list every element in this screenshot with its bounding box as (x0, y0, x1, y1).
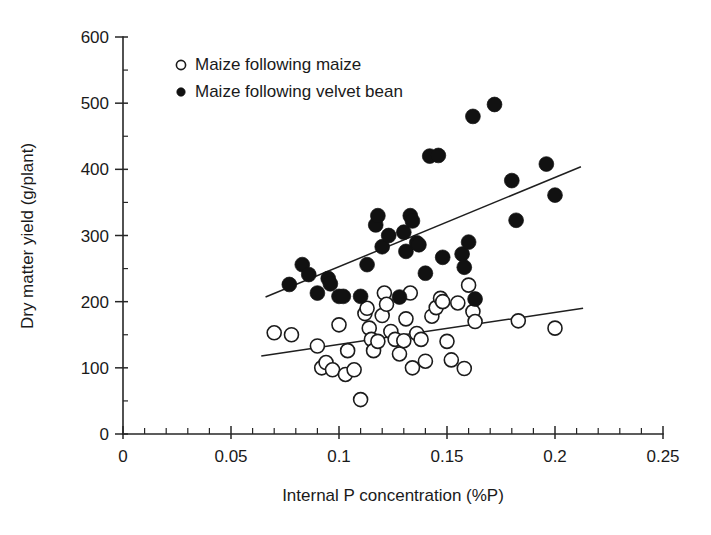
data-point-open (418, 354, 432, 368)
data-point-filled (468, 292, 483, 307)
data-point-open (548, 321, 562, 335)
legend-label: Maize following velvet bean (195, 82, 403, 101)
data-point-open (451, 296, 465, 310)
data-point-filled (301, 267, 316, 282)
data-point-open (332, 318, 346, 332)
y-tick-label: 100 (81, 359, 109, 378)
y-tick-label: 400 (81, 160, 109, 179)
data-point-filled (323, 276, 338, 291)
data-point-filled (431, 148, 446, 163)
data-point-open (347, 363, 361, 377)
data-point-filled (370, 208, 385, 223)
legend-marker-open (176, 60, 185, 69)
y-tick-label: 300 (81, 227, 109, 246)
data-point-filled (457, 260, 472, 275)
data-point-filled (392, 290, 407, 305)
data-point-open (399, 312, 413, 326)
y-tick-label: 200 (81, 293, 109, 312)
x-tick-label: 0.1 (327, 447, 351, 466)
data-point-filled (381, 228, 396, 243)
data-point-open (436, 295, 450, 309)
data-point-filled (310, 286, 325, 301)
data-point-filled (336, 289, 351, 304)
data-point-filled (504, 173, 519, 188)
data-point-filled (461, 235, 476, 250)
data-point-filled (435, 250, 450, 265)
data-point-open (310, 339, 324, 353)
plot-canvas: 00.050.10.150.20.250100200300400500600 M… (0, 0, 711, 535)
x-tick-label: 0.15 (430, 447, 463, 466)
data-point-open (267, 326, 281, 340)
data-point-open (371, 334, 385, 348)
y-tick-label: 600 (81, 28, 109, 47)
x-tick-label: 0 (118, 447, 127, 466)
y-tick-label: 500 (81, 94, 109, 113)
scatter-plot-figure: 00.050.10.150.20.250100200300400500600 M… (0, 0, 711, 535)
data-point-open (341, 344, 355, 358)
legend-label: Maize following maize (195, 55, 361, 74)
x-axis-title: Internal P concentration (%P) (282, 486, 504, 505)
data-point-open (440, 334, 454, 348)
data-point-filled (405, 214, 420, 229)
data-point-open (444, 353, 458, 367)
data-point-filled (548, 188, 563, 203)
y-axis-title: Dry matter yield (g/plant) (18, 143, 37, 329)
legend-group: Maize following maizeMaize following vel… (176, 55, 403, 101)
data-point-filled (509, 213, 524, 228)
data-point-open (414, 332, 428, 346)
series-maize-following-velvet-bean-points (282, 97, 562, 306)
data-point-filled (539, 157, 554, 172)
legend-marker-filled (177, 88, 185, 96)
data-point-filled (282, 277, 297, 292)
data-point-filled (418, 266, 433, 281)
data-point-open (380, 297, 394, 311)
data-point-filled (466, 109, 481, 124)
x-tick-label: 0.05 (214, 447, 247, 466)
data-point-open (354, 393, 368, 407)
data-point-filled (360, 257, 375, 272)
trend-lines-group (261, 167, 583, 356)
y-tick-label: 0 (100, 425, 109, 444)
data-point-open (326, 363, 340, 377)
data-point-filled (487, 97, 502, 112)
data-point-filled (412, 237, 427, 252)
data-point-open (462, 278, 476, 292)
data-point-open (468, 315, 482, 329)
x-tick-label: 0.2 (543, 447, 567, 466)
data-point-open (405, 361, 419, 375)
data-point-open (392, 347, 406, 361)
data-point-open (397, 334, 411, 348)
data-point-open (511, 314, 525, 328)
x-tick-label: 0.25 (646, 447, 679, 466)
data-point-open (457, 361, 471, 375)
data-point-filled (353, 289, 368, 304)
data-point-open (284, 328, 298, 342)
